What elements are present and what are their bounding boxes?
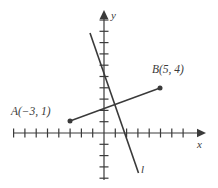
point-b-label: B(5, 4) (152, 64, 184, 76)
point-a-label: A(−3, 1) (11, 106, 51, 118)
coordinate-plane-figure: A(−3, 1) B(5, 4) l y x (0, 0, 218, 188)
graph-canvas (0, 0, 218, 188)
line-l (90, 33, 139, 173)
point-b-marker (158, 86, 163, 91)
line-l-label: l (141, 164, 144, 175)
y-axis (100, 10, 109, 180)
x-axis-arrowhead (197, 129, 206, 138)
y-axis-label: y (111, 10, 116, 21)
point-a-marker (68, 119, 73, 124)
y-axis-arrowhead (100, 10, 109, 19)
x-axis-label: x (197, 139, 202, 150)
segment-ab (70, 88, 160, 121)
x-axis (14, 129, 206, 138)
